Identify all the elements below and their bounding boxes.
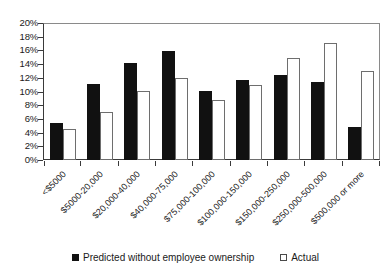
y-tick-label: 2% [25,141,38,151]
chart-legend: Predicted without employee ownershipActu… [0,252,391,263]
y-axis: 20%18%16%14%12%10%8%6%4%2%0% [0,23,38,160]
y-tick-label: 10% [20,87,38,97]
bar-actual [175,78,188,160]
y-tick-mark [38,160,43,161]
y-tick-label: 12% [20,73,38,83]
legend-label: Actual [291,252,319,263]
bar-predicted [87,84,100,160]
bar-chart: 20%18%16%14%12%10%8%6%4%2%0% <$5000$5000… [0,0,391,279]
y-tick-label: 8% [25,100,38,110]
x-axis-labels: <$5000$5000-20,000$20,000-40,000$40,000-… [44,167,380,247]
y-tick-label: 4% [25,128,38,138]
y-tick-label: 18% [20,32,38,42]
bar-actual [137,91,150,160]
bar-actual [361,71,374,160]
filled-square-icon [72,254,79,261]
y-tick-label: 0% [25,155,38,165]
bar-actual [287,58,300,160]
bar-predicted [50,123,63,160]
bar-actual [324,43,337,160]
y-tick-label: 16% [20,45,38,55]
y-tick-label: 14% [20,59,38,69]
x-label-cell: $500,000 or more [343,167,380,247]
bar-group [81,24,118,160]
bar-group [44,24,81,160]
y-tick-label: 20% [20,18,38,28]
legend-item: Predicted without employee ownership [72,252,254,263]
x-tick-mark [44,161,45,166]
hollow-square-icon [280,254,287,261]
legend-label: Predicted without employee ownership [83,252,254,263]
x-axis-tick-label-text: <$5000 [39,169,67,197]
y-tick-label: 6% [25,114,38,124]
bar-actual [100,112,113,160]
legend-item: Actual [280,252,319,263]
